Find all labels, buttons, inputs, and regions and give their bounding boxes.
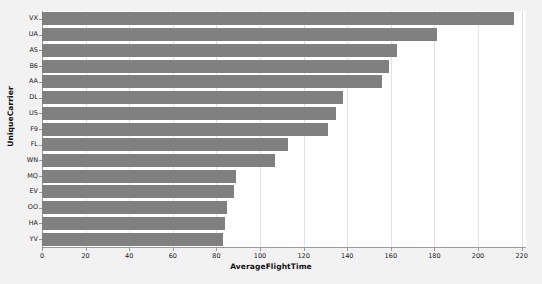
y-tick-mark	[39, 19, 42, 20]
x-tick-mark	[522, 248, 523, 251]
x-tick-mark	[173, 248, 174, 251]
bar-YV	[42, 233, 223, 246]
y-tick-mark	[39, 66, 42, 67]
x-tick-label-140: 140	[334, 252, 360, 260]
x-tick-label-120: 120	[291, 252, 317, 260]
y-tick-mark	[39, 192, 42, 193]
bar-fill	[42, 138, 288, 151]
bar-fill	[42, 170, 236, 183]
bar-fill	[42, 28, 437, 41]
y-tick-mark	[39, 223, 42, 224]
bar-fill	[42, 185, 234, 198]
y-tick-mark	[39, 160, 42, 161]
x-tick-label-100: 100	[247, 252, 273, 260]
x-tick-mark	[347, 248, 348, 251]
bar-AS	[42, 44, 397, 57]
y-tick-mark	[39, 145, 42, 146]
bar-fill	[42, 154, 275, 167]
y-tick-mark	[39, 35, 42, 36]
y-axis-label: UniqueCarrier	[6, 69, 15, 165]
bar-B6	[42, 60, 389, 73]
bar-US	[42, 107, 336, 120]
x-tick-label-60: 60	[160, 252, 186, 260]
x-tick-label-220: 220	[509, 252, 535, 260]
x-tick-mark	[304, 248, 305, 251]
x-tick-mark	[260, 248, 261, 251]
y-tick-label-EV: EV	[0, 185, 38, 198]
x-tick-label-160: 160	[378, 252, 404, 260]
x-tick-mark	[478, 248, 479, 251]
bar-VX	[42, 12, 514, 25]
bar-fill	[42, 107, 336, 120]
y-tick-mark	[39, 129, 42, 130]
gridline	[478, 11, 479, 247]
y-tick-label-AS: AS	[0, 44, 38, 57]
gridline	[522, 11, 523, 247]
bar-fill	[42, 217, 225, 230]
x-axis-line	[42, 247, 526, 248]
bar-EV	[42, 185, 234, 198]
bar-AA	[42, 75, 382, 88]
bar-OO	[42, 201, 227, 214]
bar-MQ	[42, 170, 236, 183]
bar-fill	[42, 44, 397, 57]
bar-HA	[42, 217, 225, 230]
x-tick-label-0: 0	[29, 252, 55, 260]
chart-figure: VXUAASB6AADLUSF9FLWNMQEVOOHAYV 020406080…	[0, 0, 542, 284]
y-tick-label-VX: VX	[0, 12, 38, 25]
bar-fill	[42, 201, 227, 214]
y-tick-label-HA: HA	[0, 217, 38, 230]
bar-DL	[42, 91, 343, 104]
x-tick-mark	[391, 248, 392, 251]
x-tick-label-180: 180	[421, 252, 447, 260]
bar-fill	[42, 75, 382, 88]
bar-fill	[42, 233, 223, 246]
x-tick-label-20: 20	[73, 252, 99, 260]
bar-UA	[42, 28, 437, 41]
bar-fill	[42, 60, 389, 73]
x-tick-mark	[216, 248, 217, 251]
bar-fill	[42, 123, 328, 136]
y-tick-label-MQ: MQ	[0, 170, 38, 183]
y-tick-label-UA: UA	[0, 28, 38, 41]
bar-F9	[42, 123, 328, 136]
x-tick-mark	[42, 248, 43, 251]
gridline	[434, 11, 435, 247]
bar-WN	[42, 154, 275, 167]
y-tick-mark	[39, 98, 42, 99]
y-tick-label-YV: YV	[0, 233, 38, 246]
x-tick-mark	[86, 248, 87, 251]
bar-FL	[42, 138, 288, 151]
x-axis-label: AverageFlightTime	[0, 262, 542, 271]
x-tick-label-40: 40	[116, 252, 142, 260]
y-tick-mark	[39, 113, 42, 114]
bar-fill	[42, 91, 343, 104]
y-tick-label-OO: OO	[0, 201, 38, 214]
bar-fill	[42, 12, 514, 25]
x-tick-mark	[129, 248, 130, 251]
y-tick-mark	[39, 208, 42, 209]
y-tick-mark	[39, 176, 42, 177]
y-tick-mark	[39, 82, 42, 83]
y-tick-mark	[39, 50, 42, 51]
x-tick-label-200: 200	[465, 252, 491, 260]
x-tick-mark	[434, 248, 435, 251]
y-tick-mark	[39, 239, 42, 240]
x-tick-label-80: 80	[203, 252, 229, 260]
